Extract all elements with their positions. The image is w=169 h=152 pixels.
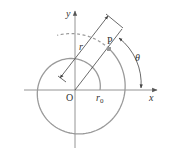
- y-axis-label: y: [65, 8, 71, 19]
- spiral-curve: [37, 49, 125, 134]
- radius-ray: [75, 29, 122, 90]
- x-axis-label: x: [148, 92, 154, 103]
- point-p-marker: [107, 47, 111, 51]
- spiral-curve-dashed: [57, 34, 109, 49]
- dimension-extension-bottom: [58, 76, 66, 82]
- polar-diagram: y x O P r θ r0: [0, 0, 169, 152]
- theta-label: θ: [135, 52, 140, 63]
- point-label: P: [107, 35, 113, 46]
- radius-label: r: [79, 41, 83, 52]
- origin-label: O: [66, 92, 73, 103]
- initial-radius-label: r0: [96, 92, 104, 105]
- dimension-extension-top: [106, 14, 123, 28]
- radius-dimension-line: [60, 16, 108, 78]
- initial-radius-subscript: 0: [100, 97, 104, 105]
- theta-arc: [119, 38, 141, 88]
